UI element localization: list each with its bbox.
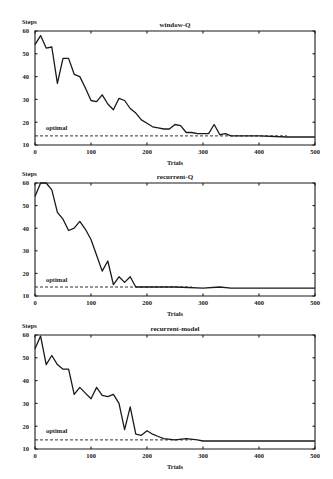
- plot-frame: [35, 31, 315, 145]
- y-tick-label: 10: [23, 292, 30, 299]
- data-line: [35, 183, 315, 288]
- optimal-label: optimal: [46, 124, 68, 131]
- y-axis-label: Steps: [22, 322, 37, 329]
- y-tick-label: 20: [23, 423, 30, 430]
- y-tick-label: 30: [23, 96, 30, 103]
- x-axis-label: Trials: [167, 159, 184, 166]
- x-tick-label: 200: [142, 299, 152, 306]
- chart-recurrent-q: Steps recurrent-Q Trials optimal 0100200…: [22, 170, 320, 317]
- x-tick-label: 400: [254, 148, 264, 155]
- optimal-label: optimal: [46, 276, 68, 283]
- chart-title: recurrent-Q: [157, 173, 194, 181]
- y-tick-label: 60: [23, 179, 30, 186]
- y-tick-label: 60: [23, 27, 30, 34]
- optimal-label: optimal: [46, 427, 68, 434]
- x-tick-label: 0: [33, 299, 36, 306]
- x-tick-label: 500: [310, 299, 320, 306]
- y-axis-label: Steps: [22, 170, 37, 177]
- chart-recurrent-model: Steps recurrent-model Trials optimal 010…: [22, 322, 320, 470]
- y-axis-label: Steps: [22, 18, 37, 25]
- chart-title: recurrent-model: [150, 325, 199, 333]
- x-axis-label: Trials: [167, 463, 184, 470]
- figure: Steps window-Q Trials optimal 0100200300…: [0, 0, 333, 479]
- x-tick-label: 200: [142, 148, 152, 155]
- y-tick-label: 50: [23, 202, 30, 209]
- data-line: [35, 36, 315, 137]
- x-tick-label: 100: [86, 148, 96, 155]
- y-tick-label: 20: [23, 119, 30, 126]
- chart-window-q: Steps window-Q Trials optimal 0100200300…: [22, 18, 320, 166]
- x-tick-label: 100: [86, 299, 96, 306]
- x-tick-label: 0: [33, 452, 36, 459]
- plot-frame: [35, 335, 315, 449]
- x-tick-label: 0: [33, 148, 36, 155]
- x-tick-label: 500: [310, 148, 320, 155]
- chart-title: window-Q: [159, 21, 191, 29]
- x-tick-label: 300: [198, 148, 208, 155]
- y-tick-label: 10: [23, 141, 30, 148]
- x-tick-label: 400: [254, 452, 264, 459]
- y-tick-label: 40: [23, 225, 30, 232]
- y-tick-label: 10: [23, 445, 30, 452]
- plot-frame: [35, 183, 315, 296]
- x-tick-label: 200: [142, 452, 152, 459]
- data-line: [35, 336, 315, 441]
- x-tick-label: 100: [86, 452, 96, 459]
- y-tick-label: 40: [23, 73, 30, 80]
- y-tick-label: 60: [23, 331, 30, 338]
- y-tick-label: 30: [23, 400, 30, 407]
- x-tick-label: 300: [198, 452, 208, 459]
- y-tick-label: 40: [23, 377, 30, 384]
- x-tick-label: 300: [198, 299, 208, 306]
- y-tick-label: 50: [23, 50, 30, 57]
- y-tick-label: 50: [23, 354, 30, 361]
- x-tick-label: 500: [310, 452, 320, 459]
- y-tick-label: 30: [23, 247, 30, 254]
- y-tick-label: 20: [23, 270, 30, 277]
- x-axis-label: Trials: [167, 310, 184, 317]
- x-tick-label: 400: [254, 299, 264, 306]
